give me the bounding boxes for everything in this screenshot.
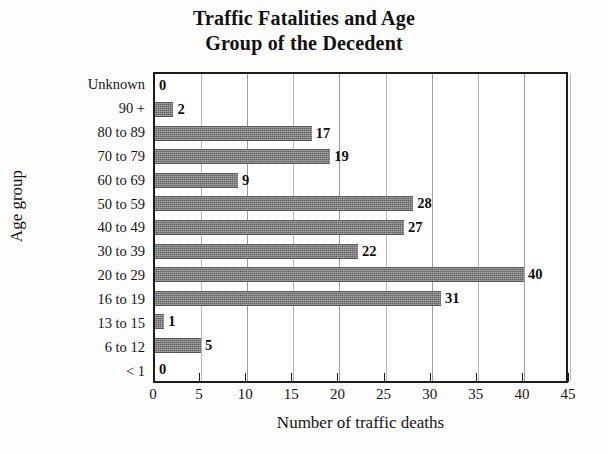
y-axis-tick-labels: Unknown90 +80 to 8970 to 7960 to 6950 to… [40, 72, 150, 383]
bar-row[interactable]: 1 [155, 314, 566, 330]
y-axis-tick-label: 16 to 19 [40, 291, 150, 307]
chart-page: Traffic Fatalities and Age Group of the … [0, 0, 608, 454]
bar-value-label: 22 [362, 244, 377, 259]
x-axis-tick-label: 35 [468, 386, 483, 403]
bar-row[interactable]: 31 [155, 290, 566, 306]
bar-row[interactable]: 0 [155, 78, 566, 94]
x-axis-tick [568, 373, 569, 382]
bar-row[interactable]: 2 [155, 101, 566, 117]
x-axis-title: Number of traffic deaths [153, 413, 568, 433]
bar-row[interactable]: 17 [155, 125, 566, 141]
bar-row[interactable]: 27 [155, 219, 566, 235]
plot-area: 02171992827224031150 [153, 72, 568, 383]
bar-value-label: 17 [316, 126, 331, 141]
bar[interactable] [155, 338, 201, 353]
bar-row[interactable]: 22 [155, 243, 566, 259]
bar[interactable] [155, 244, 358, 259]
bar-value-label: 2 [177, 102, 184, 117]
x-axis-tick-label: 25 [376, 386, 391, 403]
bar[interactable] [155, 220, 404, 235]
y-axis-tick-label: 30 to 39 [40, 243, 150, 259]
x-axis-tick-label: 15 [284, 386, 299, 403]
bar-value-label: 5 [205, 338, 212, 353]
bar-value-label: 40 [528, 267, 543, 282]
bar-row[interactable]: 40 [155, 267, 566, 283]
y-axis-tick-label: 70 to 79 [40, 148, 150, 164]
bar-row[interactable]: 28 [155, 196, 566, 212]
bar[interactable] [155, 267, 524, 282]
bar-row[interactable]: 0 [155, 361, 566, 377]
x-axis-tick-label: 30 [422, 386, 437, 403]
bar[interactable] [155, 149, 330, 164]
bar-value-label: 9 [242, 173, 249, 188]
bar-row[interactable]: 19 [155, 149, 566, 165]
y-axis-tick-label: 90 + [40, 100, 150, 116]
bar-series: 02171992827224031150 [155, 74, 566, 381]
bar-value-label: 0 [159, 362, 166, 377]
bar[interactable] [155, 196, 413, 211]
bar-value-label: 1 [168, 314, 175, 329]
x-axis-tick-label: 45 [561, 386, 576, 403]
bar[interactable] [155, 126, 312, 141]
x-axis-tick-label: 0 [149, 386, 157, 403]
y-axis-tick-label: 40 to 49 [40, 219, 150, 235]
bar-row[interactable]: 9 [155, 172, 566, 188]
bar[interactable] [155, 102, 173, 117]
x-axis-tick-labels: 051015202530354045 [153, 386, 568, 408]
bar-value-label: 31 [445, 291, 460, 306]
bar-value-label: 0 [159, 78, 166, 93]
y-axis-tick-label: 20 to 29 [40, 267, 150, 283]
bar-value-label: 19 [334, 149, 349, 164]
x-axis-tick-label: 5 [195, 386, 203, 403]
chart-title: Traffic Fatalities and Age Group of the … [0, 6, 608, 56]
y-axis-tick-label: 6 to 12 [40, 339, 150, 355]
bar[interactable] [155, 314, 164, 329]
bar[interactable] [155, 291, 441, 306]
gridline [570, 74, 571, 381]
bar-value-label: 28 [417, 196, 432, 211]
y-axis-tick-label: 80 to 89 [40, 124, 150, 140]
x-axis-tick-label: 10 [238, 386, 253, 403]
y-axis-tick-label: Unknown [40, 76, 150, 92]
y-axis-tick-label: 60 to 69 [40, 172, 150, 188]
bar-row[interactable]: 5 [155, 338, 566, 354]
y-axis-tick-label: 13 to 15 [40, 315, 150, 331]
y-axis-title: Age group [7, 126, 27, 286]
x-axis-tick-label: 40 [514, 386, 529, 403]
chart-title-line-1: Traffic Fatalities and Age [0, 6, 608, 31]
y-axis-tick-label: < 1 [40, 363, 150, 379]
bar-value-label: 27 [408, 220, 423, 235]
x-axis-tick-label: 20 [330, 386, 345, 403]
bar[interactable] [155, 173, 238, 188]
chart-title-line-2: Group of the Decedent [0, 31, 608, 56]
y-axis-tick-label: 50 to 59 [40, 196, 150, 212]
